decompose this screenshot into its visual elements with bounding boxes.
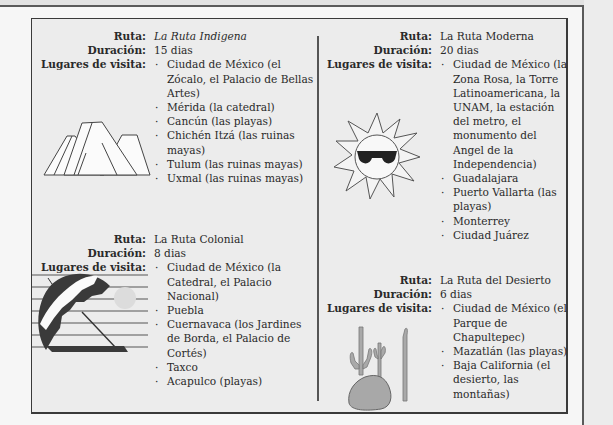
duration-label: Duración: bbox=[36, 43, 154, 57]
place-item: Ciudad de México (el Zócalo, el Palacio … bbox=[154, 57, 314, 100]
place-item: Monterrey bbox=[440, 214, 570, 228]
place-item: Uxmal (las ruinas mayas) bbox=[154, 171, 314, 185]
route-label: Ruta: bbox=[322, 273, 440, 287]
place-item: Guadalajara bbox=[440, 171, 570, 185]
place-item: Mazatlán (las playas) bbox=[440, 344, 570, 358]
place-item: Chichén Itzá (las ruinas mayas) bbox=[154, 128, 314, 156]
place-item: Mérida (la catedral) bbox=[154, 100, 314, 114]
place-item: Ciudad de México (la Catedral, el Palaci… bbox=[154, 260, 314, 303]
place-item: Taxco bbox=[154, 360, 314, 374]
beach-umbrella-icon bbox=[32, 272, 148, 357]
place-item: Ciudad Juárez bbox=[440, 228, 570, 242]
route-label: Ruta: bbox=[322, 29, 440, 43]
duration-label: Duración: bbox=[36, 246, 154, 260]
duration-label: Duración: bbox=[322, 43, 440, 57]
pyramid-icon bbox=[42, 113, 152, 178]
places-list: Ciudad de México (la Zona Rosa, la Torre… bbox=[440, 57, 570, 242]
route-name: La Ruta Indigena bbox=[154, 29, 247, 43]
route-name: La Ruta Moderna bbox=[440, 29, 534, 43]
route-label: Ruta: bbox=[36, 29, 154, 43]
sun-with-sunglasses-icon bbox=[332, 111, 422, 201]
route-duration: 15 dias bbox=[154, 43, 193, 57]
column-divider bbox=[317, 36, 319, 401]
places-list: Ciudad de México (el Parque de Chapultep… bbox=[440, 301, 570, 400]
route-name: La Ruta Colonial bbox=[154, 232, 244, 246]
route-duration: 8 dias bbox=[154, 246, 186, 260]
places-list: Ciudad de México (la Catedral, el Palaci… bbox=[154, 260, 314, 388]
place-item: Cancún (las playas) bbox=[154, 114, 314, 128]
place-item: Acapulco (playas) bbox=[154, 374, 314, 388]
place-item: Puerto Vallarta (las playas) bbox=[440, 185, 570, 213]
cactus-icon bbox=[345, 325, 425, 413]
place-item: Ciudad de México (el Parque de Chapultep… bbox=[440, 301, 570, 344]
routes-card: Ruta:La Ruta Indigena Duración:15 dias L… bbox=[31, 18, 568, 414]
place-item: Ciudad de México (la Zona Rosa, la Torre… bbox=[440, 57, 570, 171]
outer-frame-top bbox=[0, 5, 584, 7]
route-duration: 20 dias bbox=[440, 43, 479, 57]
route-name: La Ruta del Desierto bbox=[440, 273, 551, 287]
place-item: Tulum (las ruinas mayas) bbox=[154, 157, 314, 171]
place-item: Cuernavaca (los Jardines de Borda, el Pa… bbox=[154, 317, 314, 360]
outer-frame-right bbox=[582, 5, 584, 425]
route-label: Ruta: bbox=[36, 232, 154, 246]
place-item: Baja California (el desierto, las montañ… bbox=[440, 358, 570, 401]
place-item: Puebla bbox=[154, 303, 314, 317]
route-duration: 6 dias bbox=[440, 287, 472, 301]
duration-label: Duración: bbox=[322, 287, 440, 301]
places-list: Ciudad de México (el Zócalo, el Palacio … bbox=[154, 57, 314, 185]
